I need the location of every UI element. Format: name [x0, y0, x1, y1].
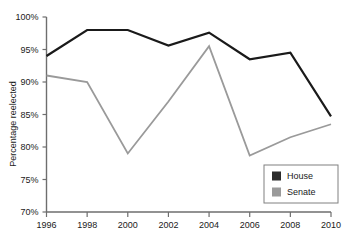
chart-container: Percentage reelected 70%75%80%85%90%95%1… [0, 0, 344, 246]
y-tick-label: 80% [20, 142, 38, 152]
x-tick-label: 2006 [240, 220, 260, 230]
y-tick-label: 70% [20, 207, 38, 217]
chart-legend[interactable]: HouseSenate [264, 165, 338, 203]
x-tick-label: 2010 [321, 220, 341, 230]
x-axis-tick-labels: 19961998200020022004200620082010 [36, 220, 341, 230]
legend-swatch-senate[interactable] [272, 188, 281, 197]
x-tick-label: 1996 [36, 220, 56, 230]
x-tick-label: 2008 [280, 220, 300, 230]
y-tick-label: 90% [20, 77, 38, 87]
x-tick-label: 2004 [199, 220, 219, 230]
y-tick-label: 100% [15, 12, 38, 22]
y-axis-title: Percentage reelected [8, 81, 18, 167]
data-series-group [47, 30, 332, 155]
x-tick-label: 2002 [158, 220, 178, 230]
x-axis-tick-marks [47, 212, 332, 217]
x-tick-label: 1998 [77, 220, 97, 230]
x-tick-label: 2000 [118, 220, 138, 230]
y-tick-label: 85% [20, 110, 38, 120]
y-tick-label: 95% [20, 45, 38, 55]
line-chart: Percentage reelected 70%75%80%85%90%95%1… [0, 0, 344, 246]
legend-label-house: House [287, 171, 313, 181]
legend-swatch-house[interactable] [272, 172, 281, 181]
series-line-senate [47, 46, 332, 155]
legend-label-senate: Senate [287, 187, 316, 197]
y-tick-label: 75% [20, 175, 38, 185]
y-axis-tick-labels: 70%75%80%85%90%95%100% [15, 12, 38, 217]
